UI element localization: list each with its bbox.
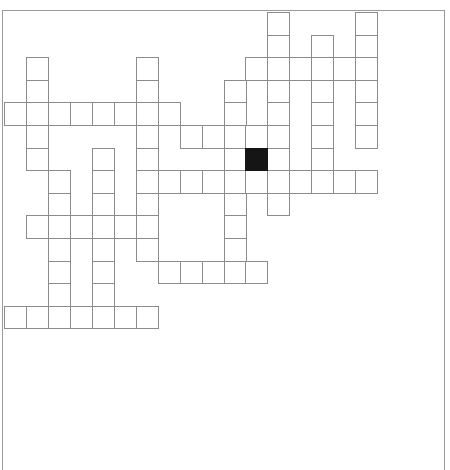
crossword-cell[interactable] (355, 80, 378, 104)
crossword-cell[interactable] (48, 261, 71, 285)
crossword-cell[interactable] (180, 125, 203, 149)
crossword-cell[interactable] (158, 261, 181, 285)
crossword-cell[interactable] (26, 148, 49, 172)
crossword-cell[interactable] (224, 215, 247, 239)
crossword-cell[interactable] (4, 306, 27, 330)
crossword-cell[interactable] (26, 80, 49, 104)
crossword-cell[interactable] (136, 215, 159, 239)
crossword-cell[interactable] (311, 57, 334, 81)
crossword-cell[interactable] (48, 306, 71, 330)
crossword-cell[interactable] (289, 170, 312, 194)
crossword-cell[interactable] (136, 148, 159, 172)
crossword-cell[interactable] (224, 125, 247, 149)
crossword-cell[interactable] (245, 125, 268, 149)
crossword-cell[interactable] (224, 102, 247, 126)
crossword-cell[interactable] (224, 193, 247, 217)
crossword-cell[interactable] (26, 125, 49, 149)
crossword-cell[interactable] (92, 148, 115, 172)
crossword-cell[interactable] (311, 35, 334, 59)
crossword-cell[interactable] (311, 148, 334, 172)
crossword-cell[interactable] (311, 80, 334, 104)
crossword-cell[interactable] (26, 215, 49, 239)
crossword-cell[interactable] (136, 125, 159, 149)
crossword-cell[interactable] (48, 238, 71, 262)
crossword-cell[interactable] (311, 102, 334, 126)
crossword-cell[interactable] (224, 170, 247, 194)
crossword-cell[interactable] (26, 102, 49, 126)
crossword-cell[interactable] (114, 215, 137, 239)
crossword-cell[interactable] (136, 238, 159, 262)
crossword-cell[interactable] (311, 170, 334, 194)
crossword-cell[interactable] (267, 102, 290, 126)
crossword-cell[interactable] (92, 102, 115, 126)
crossword-cell[interactable] (136, 80, 159, 104)
crossword-cell[interactable] (136, 102, 159, 126)
crossword-cell[interactable] (158, 170, 181, 194)
crossword-cell[interactable] (70, 306, 93, 330)
crossword-cell[interactable] (92, 261, 115, 285)
crossword-cell[interactable] (355, 102, 378, 126)
crossword-cell[interactable] (4, 102, 27, 126)
crossword-cell[interactable] (114, 102, 137, 126)
crossword-cell[interactable] (267, 148, 290, 172)
crossword-cell[interactable] (355, 35, 378, 59)
crossword-cell[interactable] (224, 261, 247, 285)
crossword-cell[interactable] (355, 12, 378, 36)
crossword-cell[interactable] (333, 170, 356, 194)
crossword-cell[interactable] (202, 125, 225, 149)
crossword-cell[interactable] (136, 170, 159, 194)
crossword-cell[interactable] (267, 12, 290, 36)
crossword-cell[interactable] (70, 102, 93, 126)
crossword-cell[interactable] (114, 306, 137, 330)
crossword-cell[interactable] (245, 170, 268, 194)
crossword-cell[interactable] (92, 193, 115, 217)
crossword-cell[interactable] (136, 306, 159, 330)
crossword-cell[interactable] (48, 170, 71, 194)
crossword-cell[interactable] (355, 125, 378, 149)
crossword-cell[interactable] (245, 261, 268, 285)
crossword-cell[interactable] (180, 170, 203, 194)
crossword-cell[interactable] (267, 193, 290, 217)
crossword-cell[interactable] (70, 215, 93, 239)
crossword-cell[interactable] (180, 261, 203, 285)
crossword-cell[interactable] (267, 35, 290, 59)
crossword-cell[interactable] (355, 57, 378, 81)
crossword-cell[interactable] (92, 306, 115, 330)
black-square (245, 148, 268, 172)
crossword-cell[interactable] (48, 193, 71, 217)
crossword-cell[interactable] (92, 283, 115, 307)
crossword-cell[interactable] (136, 193, 159, 217)
crossword-cell[interactable] (289, 57, 312, 81)
crossword-cell[interactable] (92, 215, 115, 239)
crossword-cell[interactable] (92, 238, 115, 262)
crossword-cell[interactable] (224, 80, 247, 104)
crossword-cell[interactable] (267, 80, 290, 104)
crossword-cell[interactable] (267, 170, 290, 194)
crossword-cell[interactable] (202, 261, 225, 285)
crossword-cell[interactable] (355, 170, 378, 194)
crossword-cell[interactable] (202, 170, 225, 194)
crossword-cell[interactable] (92, 170, 115, 194)
crossword-cell[interactable] (333, 57, 356, 81)
crossword-cell[interactable] (158, 102, 181, 126)
crossword-cell[interactable] (311, 125, 334, 149)
crossword-cell[interactable] (48, 102, 71, 126)
crossword-cell[interactable] (48, 215, 71, 239)
crossword-cell[interactable] (224, 238, 247, 262)
crossword-cell[interactable] (26, 306, 49, 330)
crossword-cell[interactable] (245, 57, 268, 81)
crossword-cell[interactable] (26, 57, 49, 81)
crossword-cell[interactable] (224, 148, 247, 172)
crossword-cell[interactable] (48, 283, 71, 307)
crossword-cell[interactable] (267, 57, 290, 81)
crossword-cell[interactable] (136, 57, 159, 81)
crossword-cell[interactable] (267, 125, 290, 149)
